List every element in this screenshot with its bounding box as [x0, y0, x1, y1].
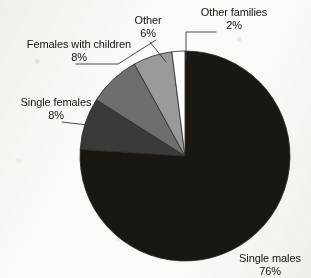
- slice-label-other: Other 6%: [122, 14, 174, 39]
- slice-label-percent: 2%: [185, 19, 283, 32]
- slice-label-percent: 8%: [3, 109, 109, 122]
- pie-slices: [80, 51, 290, 261]
- slice-label-single-males: Single males 76%: [230, 252, 310, 277]
- pie-chart-figure: Females with children 8% Other 6% Other …: [0, 0, 311, 278]
- slice-label-percent: 8%: [6, 51, 152, 64]
- slice-label-name: Single females: [21, 96, 92, 108]
- slice-label-name: Females with children: [27, 38, 131, 50]
- slice-label-percent: 6%: [122, 27, 174, 40]
- slice-label-name: Other families: [201, 6, 267, 18]
- slice-label-name: Single males: [239, 252, 301, 264]
- slice-label-percent: 76%: [230, 265, 310, 278]
- slice-label-single-females: Single females 8%: [3, 96, 109, 121]
- slice-label-other-families: Other families 2%: [185, 6, 283, 31]
- slice-label-females-with-children: Females with children 8%: [6, 38, 152, 63]
- slice-label-name: Other: [134, 14, 161, 26]
